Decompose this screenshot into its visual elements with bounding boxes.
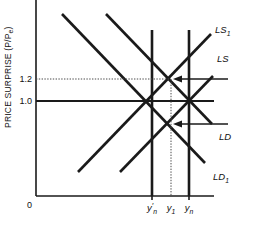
curve-label-ld: LD [219, 131, 231, 142]
x-tick-label-y1: y1 [166, 202, 176, 215]
curve-label-ls1: LS1 [215, 24, 231, 37]
curve-label-ls: LS [217, 53, 229, 64]
x-tick-label-yn-prime: y′n [146, 201, 157, 215]
curve-ld [106, 14, 212, 124]
curve-ld1 [62, 14, 205, 163]
arrow-ls-shift [173, 76, 228, 83]
x-tick-label-yn: yn [184, 202, 194, 215]
origin-label: 0 [27, 200, 32, 210]
y-axis-title: PRICE SURPRISE (P/Pe) [3, 27, 14, 129]
arrow-ld-shift [173, 121, 228, 128]
y-tick-label-1: 1.2 [19, 74, 32, 84]
price-surprise-chart: 1.2 1.0 0 y′n y1 yn LS1 LS LD LD1 PRICE … [0, 0, 253, 227]
curve-label-ld1: LD1 [213, 171, 229, 184]
y-tick-label-2: 1.0 [19, 96, 32, 106]
